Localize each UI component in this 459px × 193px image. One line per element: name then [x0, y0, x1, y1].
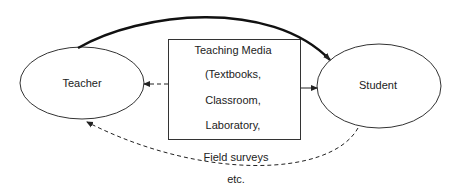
teacher-label: Teacher — [62, 77, 101, 89]
etc-label: etc. — [227, 173, 245, 185]
media-line-3: Classroom, — [205, 94, 261, 106]
media-line-4: Laboratory, — [206, 119, 261, 131]
media-line-2: (Textbooks, — [205, 68, 261, 80]
teaching-media-diagram: Teacher Student Teaching Media (Textbook… — [0, 0, 459, 193]
teacher-node: Teacher — [20, 47, 144, 119]
field-surveys-label: Field surveys — [204, 151, 269, 163]
student-label: Student — [359, 79, 397, 91]
student-node: Student — [317, 44, 441, 128]
teaching-media-node: Teaching Media (Textbooks, Classroom, La… — [169, 40, 301, 140]
media-line-1: Teaching Media — [194, 44, 272, 56]
